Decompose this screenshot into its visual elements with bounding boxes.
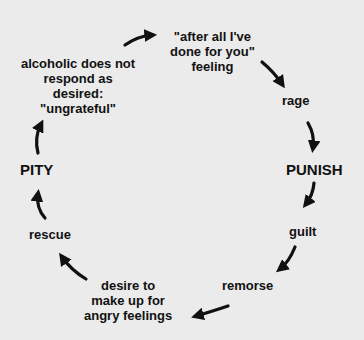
node-desire-to-make-up: desire to make up for angry feelings bbox=[84, 278, 172, 323]
arrow-rescue-to-pity bbox=[38, 194, 45, 218]
node-guilt: guilt bbox=[289, 224, 316, 239]
arrow-after-all-to-rage bbox=[262, 62, 282, 84]
arrow-guilt-to-remorse bbox=[280, 247, 295, 269]
arrow-ungrateful-to-after-all bbox=[125, 35, 152, 45]
node-after-all-ive-done-feeling: "after all I've done for you" feeling bbox=[170, 29, 255, 74]
arrow-desire-to-rescue bbox=[62, 257, 86, 279]
arrow-punish-to-guilt bbox=[306, 183, 314, 204]
node-punish: PUNISH bbox=[286, 162, 343, 177]
arrow-rage-to-punish bbox=[308, 123, 313, 148]
node-remorse: remorse bbox=[222, 278, 273, 293]
node-pity: PITY bbox=[20, 162, 53, 177]
node-rescue: rescue bbox=[29, 227, 71, 242]
node-rage: rage bbox=[282, 93, 309, 108]
arrow-pity-to-ungrateful bbox=[37, 124, 41, 153]
arrow-remorse-to-desire bbox=[196, 306, 228, 316]
node-alcoholic-ungrateful: alcoholic does not respond as desired: "… bbox=[21, 56, 135, 116]
